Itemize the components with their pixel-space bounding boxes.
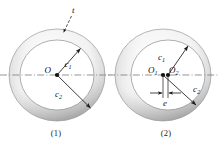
label-t-1: t [72, 5, 75, 15]
caption-panel-1: (1) [36, 128, 76, 138]
panel-2-group: O1 O2 c1 c2 e [108, 25, 218, 127]
figure-canvas: O c1 c2 t O1 O2 c1 c2 e (1 [0, 0, 218, 147]
panel-1-group: O c1 c2 t [0, 5, 112, 127]
caption-panel-2: (2) [146, 128, 186, 138]
annulus-diagram-svg: O c1 c2 t O1 O2 c1 c2 e [0, 0, 218, 147]
label-e: e [163, 98, 167, 108]
label-center-O-1: O [45, 65, 52, 75]
